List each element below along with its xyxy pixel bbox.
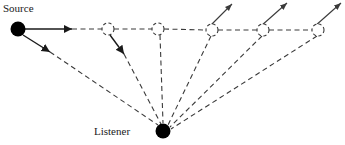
image-source-4	[257, 24, 269, 36]
image-source-3	[206, 24, 218, 36]
listener-label: Listener	[94, 125, 130, 137]
image-source-5	[312, 24, 324, 36]
source-label: Source	[3, 2, 34, 14]
listener-marker	[156, 124, 171, 139]
source-marker	[11, 22, 26, 37]
background	[0, 0, 345, 145]
image-source-ray-diagram: Source Listener	[0, 0, 345, 145]
diagram-canvas: Source Listener	[0, 0, 345, 145]
image-source-2	[152, 23, 164, 35]
image-source-1	[102, 23, 114, 35]
